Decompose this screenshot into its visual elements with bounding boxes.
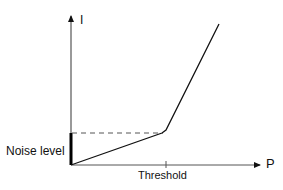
response-curve — [71, 24, 219, 165]
threshold-label: Threshold — [138, 170, 187, 181]
x-axis-label: P — [266, 157, 275, 170]
noise-level-label: Noise level — [6, 145, 65, 157]
y-axis-label: I — [80, 14, 83, 26]
threshold-diagram — [0, 0, 283, 190]
